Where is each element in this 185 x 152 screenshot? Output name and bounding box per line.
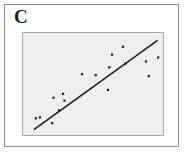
data-point (62, 93, 64, 95)
data-point (108, 66, 110, 68)
regression-line-segment (35, 41, 157, 129)
data-point (125, 62, 127, 64)
data-point (39, 116, 41, 118)
data-point (95, 74, 97, 76)
panel-label: C (14, 7, 28, 26)
data-point (145, 60, 147, 62)
figure-panel: C (4, 4, 179, 147)
data-points-group (35, 46, 160, 125)
data-point (107, 89, 109, 91)
data-point (63, 100, 65, 102)
data-point (51, 122, 53, 124)
data-point (157, 56, 159, 58)
data-point (35, 117, 37, 119)
data-point (81, 73, 83, 75)
scatter-plot-area (22, 32, 164, 136)
trendline-group (35, 41, 157, 129)
data-point (58, 109, 60, 111)
data-point (52, 97, 54, 99)
data-point (122, 46, 124, 48)
scatter-plot-svg (23, 33, 163, 135)
data-point (111, 54, 113, 56)
data-point (148, 75, 150, 77)
